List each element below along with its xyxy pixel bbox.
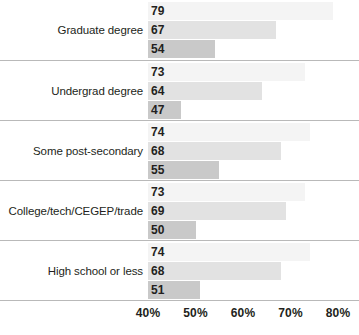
bar-value-label: 47 xyxy=(151,101,165,119)
x-axis-tick-labels: 40%50%60%70%80% xyxy=(0,306,359,326)
bar-value-label: 68 xyxy=(151,142,165,160)
bar-value-label: 74 xyxy=(151,123,165,141)
x-axis-tick-40: 40% xyxy=(136,306,161,320)
bar-value-label: 74 xyxy=(151,243,165,261)
bar-value-label: 73 xyxy=(151,63,165,81)
bar-value-label: 64 xyxy=(151,82,165,100)
bar xyxy=(148,21,276,39)
bar-stack: 746855 xyxy=(148,121,338,181)
x-axis-tick-70: 70% xyxy=(278,306,303,320)
category-label: Graduate degree xyxy=(58,0,143,60)
category-label: Undergrad degree xyxy=(51,61,143,121)
bar-value-label: 67 xyxy=(151,21,165,39)
bar-value-label: 55 xyxy=(151,161,165,179)
x-axis-tick-60: 60% xyxy=(231,306,256,320)
bar xyxy=(148,63,305,81)
bar-group: High school or less746851 xyxy=(0,240,359,300)
bar xyxy=(148,142,281,160)
bar-value-label: 73 xyxy=(151,183,165,201)
bar-group: College/tech/CEGEP/trade736950 xyxy=(0,180,359,240)
bar-group: Graduate degree796754 xyxy=(0,0,359,60)
bar-stack: 736447 xyxy=(148,61,338,121)
bar xyxy=(148,202,286,220)
bar xyxy=(148,123,310,141)
bar-stack: 736950 xyxy=(148,181,338,241)
bar xyxy=(148,262,281,280)
bar-stack: 746851 xyxy=(148,241,338,301)
x-axis-tick-50: 50% xyxy=(183,306,208,320)
bar xyxy=(148,2,333,20)
x-axis-tick-80: 80% xyxy=(326,306,351,320)
bar-stack: 796754 xyxy=(148,0,338,60)
bar-value-label: 68 xyxy=(151,262,165,280)
bar-group: Undergrad degree736447 xyxy=(0,60,359,120)
bar-value-label: 79 xyxy=(151,2,165,20)
chart-plot-area: Graduate degree796754Undergrad degree736… xyxy=(0,0,359,300)
bar xyxy=(148,82,262,100)
bar-value-label: 51 xyxy=(151,281,165,299)
bar-value-label: 50 xyxy=(151,221,165,239)
x-axis-line xyxy=(0,300,359,301)
bar-value-label: 69 xyxy=(151,202,165,220)
bar xyxy=(148,183,305,201)
bar xyxy=(148,243,310,261)
bar-value-label: 54 xyxy=(151,40,165,58)
category-label: High school or less xyxy=(48,241,143,301)
bar-chart: Graduate degree796754Undergrad degree736… xyxy=(0,0,359,335)
category-label: College/tech/CEGEP/trade xyxy=(9,181,143,241)
bar-group: Some post-secondary746855 xyxy=(0,120,359,180)
category-label: Some post-secondary xyxy=(33,121,143,181)
